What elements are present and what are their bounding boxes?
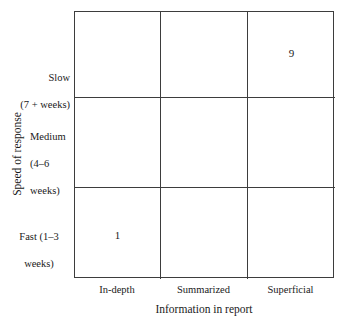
y-axis-tick-fast-line1: Fast (1–3 bbox=[6, 230, 72, 243]
matrix-grid: 9 1 bbox=[74, 11, 334, 278]
y-axis-tick-slow-line1: Slow bbox=[8, 71, 70, 84]
y-axis-tick-medium-line2: (4–6 bbox=[30, 157, 76, 170]
cell-fast-summarized bbox=[161, 188, 248, 279]
x-axis-tick-summarized: Summarized bbox=[160, 284, 247, 295]
cell-medium-summarized bbox=[161, 98, 248, 188]
y-axis-tick-slow-line2: (7 + weeks) bbox=[8, 98, 70, 111]
y-axis-tick-medium-line1: Medium bbox=[30, 130, 76, 143]
x-axis-tick-superficial: Superficial bbox=[247, 284, 334, 295]
cell-slow-indepth bbox=[75, 12, 161, 98]
cell-value-fast-indepth: 1 bbox=[75, 230, 160, 241]
matrix-chart: Speed of response Slow (7 + weeks) Mediu… bbox=[0, 0, 343, 323]
cell-value-slow-superficial: 9 bbox=[248, 48, 335, 59]
y-axis-tick-medium-line3: weeks) bbox=[30, 184, 76, 197]
x-axis-title: Information in report bbox=[74, 303, 334, 315]
y-axis-tick-slow: Slow (7 + weeks) bbox=[8, 58, 70, 125]
cell-medium-superficial bbox=[248, 98, 335, 188]
cell-fast-indepth: 1 bbox=[75, 188, 161, 279]
y-axis-tick-medium: Medium (4–6 weeks) bbox=[30, 117, 76, 211]
cell-slow-superficial: 9 bbox=[248, 12, 335, 98]
y-axis-tick-fast-line2: weeks) bbox=[6, 257, 72, 270]
cell-slow-summarized bbox=[161, 12, 248, 98]
cell-medium-indepth bbox=[75, 98, 161, 188]
y-axis-tick-fast: Fast (1–3 weeks) bbox=[6, 217, 72, 284]
x-axis-tick-in-depth: In-depth bbox=[74, 284, 160, 295]
cell-fast-superficial bbox=[248, 188, 335, 279]
